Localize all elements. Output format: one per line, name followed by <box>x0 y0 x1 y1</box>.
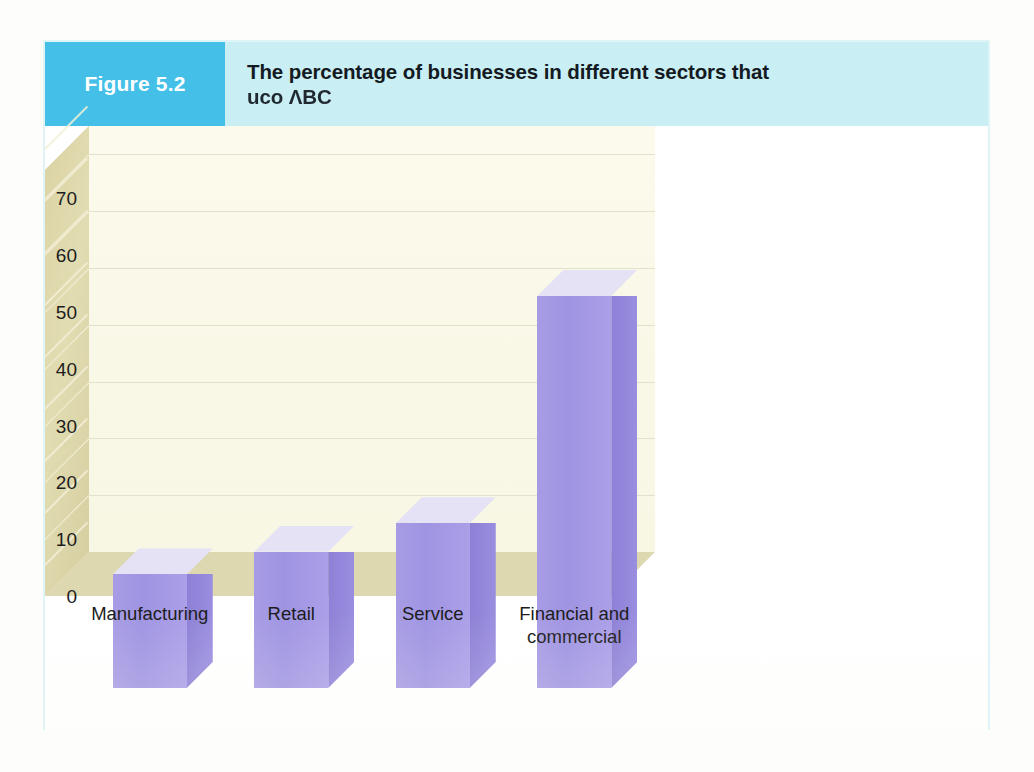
figure-number-badge: Figure 5.2 <box>45 42 225 126</box>
x-category-label: Financial and commercial <box>484 602 664 648</box>
y-tick-label: 60 <box>56 246 77 265</box>
y-tick-label: 10 <box>56 530 77 549</box>
y-tick-label: 50 <box>56 303 77 322</box>
y-tick-label: 30 <box>56 416 77 435</box>
gridline <box>89 211 655 212</box>
bar-front-face <box>113 574 187 688</box>
y-tick-label: 20 <box>56 473 77 492</box>
figure-header: Figure 5.2 The percentage of businesses … <box>45 42 988 126</box>
y-tick-label: 70 <box>56 189 77 208</box>
bar-column <box>113 574 187 688</box>
y-axis-ticks: 010203040506070 <box>89 126 90 596</box>
figure-container: Figure 5.2 The percentage of businesses … <box>43 40 990 730</box>
bar-side-face <box>187 574 213 688</box>
figure-title: The percentage of businesses in differen… <box>225 42 988 126</box>
figure-title-line-2: uco ΛBC <box>247 84 970 109</box>
y-tick-label: 40 <box>56 359 77 378</box>
gridline <box>89 154 655 155</box>
gridline <box>89 268 655 269</box>
chart-canvas: % 010203040506070 ManufacturingRetailSer… <box>45 126 988 732</box>
figure-title-line-1: The percentage of businesses in differen… <box>247 59 970 84</box>
figure-number-label: Figure 5.2 <box>84 72 185 96</box>
